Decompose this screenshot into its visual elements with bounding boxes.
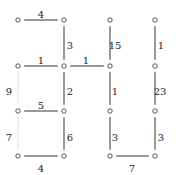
node-n10 [16, 64, 20, 68]
edge-weight-label: 4 [38, 9, 44, 20]
edge-weight-label: 6 [67, 132, 73, 143]
node-n23 [153, 109, 157, 113]
edge-weight-label: 7 [129, 163, 135, 174]
node-n31 [62, 154, 66, 158]
node-n00 [16, 18, 20, 22]
node-n30 [16, 154, 20, 158]
node-n02 [108, 18, 112, 22]
edge-weight-label: 3 [112, 132, 118, 143]
grid-graph-diagram: 4315111921235763347 [0, 0, 176, 175]
node-n03 [153, 18, 157, 22]
edge-weight-label: 7 [6, 132, 12, 143]
node-n13 [153, 64, 157, 68]
node-n11 [62, 64, 66, 68]
edge-weight-label: 9 [6, 86, 12, 97]
node-n20 [16, 109, 20, 113]
edge-weight-label: 3 [158, 132, 164, 143]
node-n01 [62, 18, 66, 22]
edge-weight-label: 3 [67, 40, 73, 51]
edge-weight-label: 1 [38, 55, 44, 66]
edge-weight-label: 1 [112, 86, 118, 97]
edge-weight-label: 4 [38, 163, 44, 174]
edge-weight-label: 23 [154, 86, 167, 97]
node-n12 [108, 64, 112, 68]
node-n33 [153, 154, 157, 158]
node-n21 [62, 109, 66, 113]
nodes-layer [16, 18, 157, 158]
node-n22 [108, 109, 112, 113]
edge-weight-label: 1 [83, 55, 89, 66]
edges-layer [18, 20, 155, 156]
edge-weight-label: 2 [67, 86, 73, 97]
node-n32 [108, 154, 112, 158]
edge-labels-layer: 4315111921235763347 [6, 9, 167, 174]
edge-weight-label: 15 [109, 40, 122, 51]
edge-weight-label: 1 [158, 40, 164, 51]
edge-weight-label: 5 [38, 100, 44, 111]
